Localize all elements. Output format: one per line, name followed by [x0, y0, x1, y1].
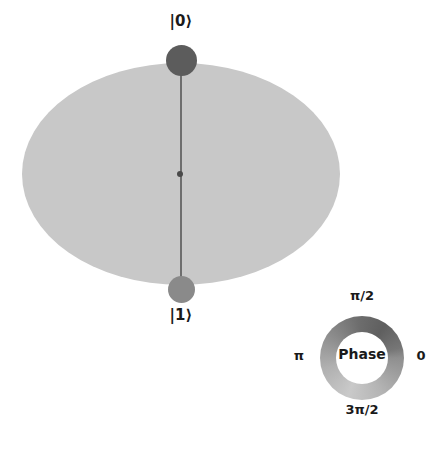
- state-marker-ket0[interactable]: [166, 45, 197, 76]
- phase-center-label: Phase: [320, 346, 404, 362]
- phase-legend: π/2 π 0 3π/2 Phase: [282, 286, 442, 434]
- qsphere-figure: |0⟩ |1⟩ π/2 π 0 3π/2 Phase: [0, 0, 448, 450]
- phase-tick-three-pi-over-2: 3π/2: [332, 402, 392, 417]
- qsphere-center-dot: [177, 171, 183, 177]
- state-label-ket1: |1⟩: [151, 306, 211, 324]
- phase-tick-pi: π: [288, 348, 310, 363]
- phase-tick-pi-over-2: π/2: [337, 288, 387, 303]
- state-marker-ket1[interactable]: [168, 276, 195, 303]
- phase-tick-zero: 0: [410, 348, 432, 363]
- phase-color-wheel: Phase: [320, 316, 404, 400]
- state-label-ket0: |0⟩: [151, 12, 211, 30]
